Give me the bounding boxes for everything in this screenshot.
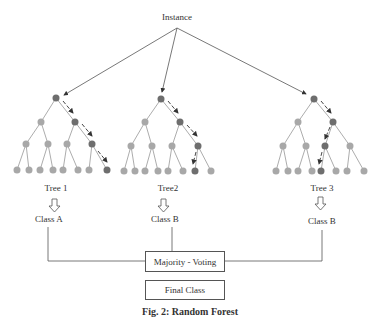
tree-2-label: Tree2 — [158, 183, 179, 193]
tree-1-label: Tree 1 — [45, 183, 68, 193]
final-class-box: Final Class — [145, 280, 225, 300]
instance-label: Instance — [162, 12, 192, 22]
instance-arrows — [64, 28, 306, 95]
figure-caption: Fig. 2: Random Forest — [142, 306, 238, 317]
down-arrow-icons — [49, 197, 326, 212]
tree-3-class: Class B — [308, 216, 336, 226]
tree-3-label: Tree 3 — [311, 183, 334, 193]
tree-2-class: Class B — [151, 214, 179, 224]
tree-3 — [273, 96, 368, 175]
majority-voting-box: Majority - Voting — [145, 251, 225, 272]
tree-1 — [14, 95, 111, 174]
tree-1-class: Class A — [35, 214, 63, 224]
tree-2 — [121, 96, 215, 175]
